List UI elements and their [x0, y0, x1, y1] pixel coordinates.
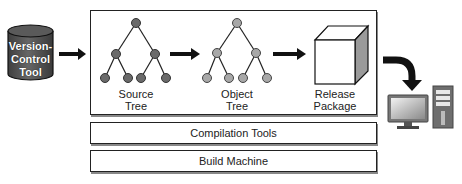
- build-machine-layer: Build Machine: [90, 150, 377, 172]
- compilation-tools-label: Compilation Tools: [190, 127, 277, 139]
- source-tree-label: Source Tree: [106, 88, 166, 112]
- release-package-label-line1: Release: [302, 88, 368, 100]
- release-package-cube: [315, 26, 368, 84]
- release-package-label-line2: Package: [302, 100, 368, 112]
- release-package-label: Release Package: [302, 88, 368, 112]
- version-control-tool-label: Version- Control Tool: [8, 40, 53, 79]
- compilation-tools-layer: Compilation Tools: [90, 122, 377, 144]
- object-tree-label-line1: Object: [207, 88, 267, 100]
- vcs-label-line3: Tool: [8, 66, 53, 79]
- object-tree-label-line2: Tree: [207, 100, 267, 112]
- vcs-label-line2: Control: [8, 53, 53, 66]
- source-tree-label-line1: Source: [106, 88, 166, 100]
- object-tree-label: Object Tree: [207, 88, 267, 112]
- source-tree-label-line2: Tree: [106, 100, 166, 112]
- build-machine-label: Build Machine: [199, 155, 268, 167]
- arrow-release-to-computer: [383, 60, 422, 91]
- arrow-object-to-release: [273, 48, 306, 60]
- desktop-computer-icon: [388, 86, 453, 129]
- arrow-source-to-object: [170, 48, 200, 60]
- object-tree-graphic: [203, 19, 272, 83]
- source-tree-graphic: [101, 19, 171, 83]
- arrow-vcs-to-source: [59, 48, 86, 60]
- vcs-label-line1: Version-: [8, 40, 53, 53]
